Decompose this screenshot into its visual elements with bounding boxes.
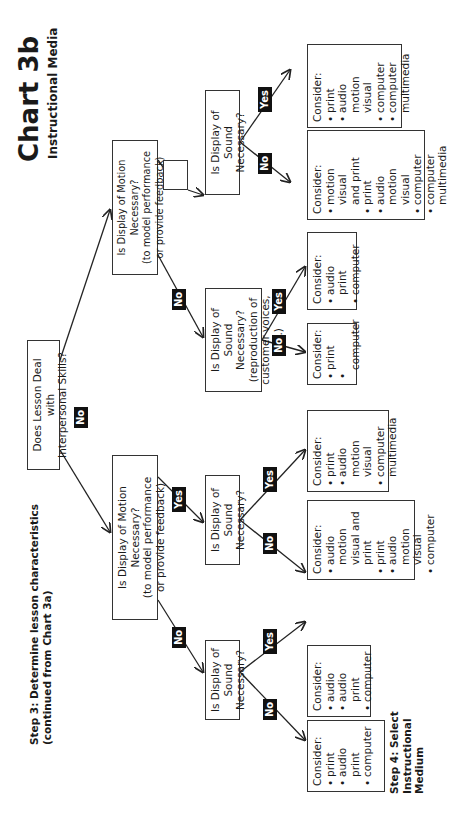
result-box-6: Consider: audio print computer [307,232,357,310]
result-box-8: Consider: print audio motion visual comp… [307,44,402,128]
no-tag-sound-lr: No [263,533,277,554]
no-tag-sound-ll: No [263,699,277,720]
sound-question-rl: Is Display of Sound Necessary? (reproduc… [205,288,262,392]
yes-tag-sound-lr: Yes [263,467,277,492]
no-tag-sound-rr: No [258,153,272,174]
yes-tag-motion-left: Yes [172,487,186,512]
sound-question-rr: Is Display of Sound Necessary? [205,90,240,195]
flowchart-canvas: Chart 3b Instructional Media Step 3: Det… [0,0,458,822]
step4-label: Step 4: Select Instructional Medium [388,711,426,794]
yes-tag-sound-ll: Yes [263,629,277,654]
result-box-5: Consider: print computer [307,323,357,385]
result-box-2: Consider: audio audio print computer [307,645,371,717]
step3-label: Step 3: Determine lesson characteristics… [28,504,53,745]
result-box-4: Consider: print audio motion visual comp… [307,410,389,492]
chart-title: Chart 3b [14,36,44,162]
no-tag-sound-rl: No [272,335,286,356]
empty-label-box [163,160,188,190]
no-tag-motion-left: No [172,627,186,648]
yes-tag-sound-rl: Yes [272,289,286,314]
result-box-1: Consider: print audio print computer [307,720,385,792]
result-box-7: Consider: motion visual and print print … [307,130,425,220]
sound-question-ll: Is Display of Sound Necessary? [205,640,240,720]
chart-subtitle: Instructional Media [46,28,60,159]
motion-question-right: Is Display of Motion Necessary? (to mode… [112,140,158,275]
yes-tag-sound-rr: Yes [258,87,272,112]
result-box-3: Consider: audio motion visual and print … [307,500,415,580]
motion-question-left: Is Display of Motion Necessary? (to mode… [112,455,158,620]
sound-question-lr: Is Display of Sound Necessary? [205,475,240,565]
root-question-box: Does Lesson Deal with Interpersonal Skil… [27,340,60,470]
no-tag-motion-right: No [172,289,186,310]
no-tag-root: No [74,407,88,428]
